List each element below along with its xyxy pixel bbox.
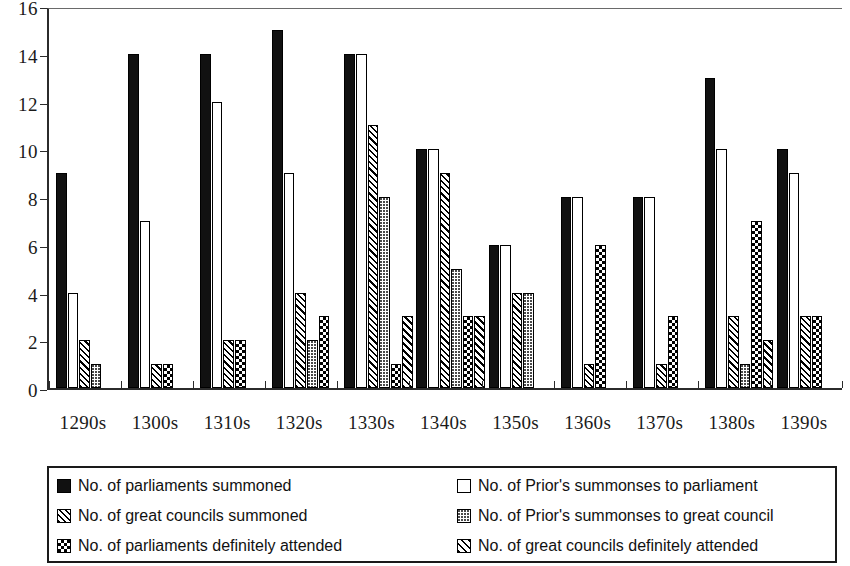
bar (668, 316, 679, 388)
bar (223, 340, 234, 388)
bar (212, 102, 223, 389)
y-tick-label: 14 (18, 46, 38, 65)
bar (572, 197, 583, 388)
legend-item[interactable]: No. of great councils definitely attende… (457, 531, 835, 561)
y-tick-mark (40, 56, 47, 57)
x-tick-label: 1330s (348, 412, 395, 434)
x-tick-mark (842, 381, 843, 388)
y-axis: 0246810121416 (0, 0, 46, 390)
x-tick-mark (121, 381, 122, 388)
legend-item[interactable]: No. of Prior's summonses to great counci… (457, 501, 835, 531)
bar-group (633, 9, 678, 388)
legend-label: No. of parliaments summoned (78, 477, 291, 495)
bar (523, 293, 534, 389)
legend-swatch-icon (57, 539, 71, 553)
y-tick-mark (40, 247, 47, 248)
x-tick-mark (626, 381, 627, 388)
y-tick-label: 2 (28, 333, 38, 352)
bar (151, 364, 162, 388)
bar (56, 173, 67, 388)
chart-legend: No. of parliaments summonedNo. of Prior'… (47, 466, 837, 563)
bar-group (705, 9, 774, 388)
legend-label: No. of Prior's summonses to parliament (478, 477, 758, 495)
legend-label: No. of Prior's summonses to great counci… (478, 507, 774, 525)
y-tick-label: 0 (28, 381, 38, 400)
legend-item[interactable]: No. of Prior's summonses to parliament (457, 471, 835, 501)
bar (595, 245, 606, 388)
bar (391, 364, 402, 388)
legend-item[interactable]: No. of parliaments summoned (57, 471, 457, 501)
legend-swatch-icon (457, 479, 471, 493)
bar (800, 316, 811, 388)
y-tick-mark (40, 8, 47, 9)
x-tick-label: 1340s (420, 412, 467, 434)
y-tick-label: 8 (28, 190, 38, 209)
bar (295, 293, 306, 389)
x-tick-label: 1380s (708, 412, 755, 434)
legend-swatch-icon (57, 479, 71, 493)
x-tick-label: 1390s (781, 412, 828, 434)
x-tick-mark (482, 381, 483, 388)
bar (356, 54, 367, 388)
plot-area: 0246810121416 1290s1300s1310s1320s1330s1… (0, 0, 850, 410)
bar (128, 54, 139, 388)
bar (68, 293, 79, 389)
y-tick-label: 10 (18, 142, 38, 161)
y-tick-mark (40, 199, 47, 200)
x-axis: 1290s1300s1310s1320s1330s1340s1350s1360s… (47, 412, 842, 442)
bar-group (416, 9, 485, 388)
bar (633, 197, 644, 388)
bar (368, 125, 379, 388)
bar (440, 173, 451, 388)
legend-label: No. of great councils summoned (78, 507, 307, 525)
bar-group (489, 9, 534, 388)
bar-group (200, 9, 245, 388)
bar (751, 221, 762, 388)
x-tick-label: 1350s (492, 412, 539, 434)
legend-swatch-icon (57, 509, 71, 523)
legend-swatch-icon (457, 539, 471, 553)
y-tick-mark (40, 104, 47, 105)
y-tick-mark (40, 390, 47, 391)
x-tick-mark (698, 381, 699, 388)
bar (91, 364, 102, 388)
x-tick-mark (193, 381, 194, 388)
legend-item[interactable]: No. of great councils summoned (57, 501, 457, 531)
y-tick-mark (40, 342, 47, 343)
bar (812, 316, 823, 388)
bar (428, 149, 439, 388)
legend-swatch-icon (457, 509, 471, 523)
bar (307, 340, 318, 388)
bar-group (56, 9, 101, 388)
bar (705, 78, 716, 388)
x-tick-label: 1320s (276, 412, 323, 434)
x-tick-mark (265, 381, 266, 388)
bar (319, 316, 330, 388)
bar-group (272, 9, 329, 388)
bar (763, 340, 774, 388)
bar-chart: 0246810121416 1290s1300s1310s1320s1330s1… (0, 0, 850, 566)
x-tick-label: 1370s (636, 412, 683, 434)
bar (272, 30, 283, 388)
bar (416, 149, 427, 388)
x-tick-label: 1310s (204, 412, 251, 434)
legend-label: No. of parliaments definitely attended (78, 537, 342, 555)
plot-frame (47, 8, 842, 390)
y-tick-mark (40, 151, 47, 152)
bar-group (561, 9, 606, 388)
y-tick-label: 6 (28, 237, 38, 256)
bar (284, 173, 295, 388)
bar (489, 245, 500, 388)
bar (512, 293, 523, 389)
bar (451, 269, 462, 388)
y-tick-label: 16 (18, 0, 38, 18)
bar (379, 197, 390, 388)
bar (644, 197, 655, 388)
bar (789, 173, 800, 388)
legend-item[interactable]: No. of parliaments definitely attended (57, 531, 457, 561)
y-tick-mark (40, 295, 47, 296)
bar (716, 149, 727, 388)
x-tick-mark (337, 381, 338, 388)
bar (463, 316, 474, 388)
bars-layer (49, 9, 842, 388)
